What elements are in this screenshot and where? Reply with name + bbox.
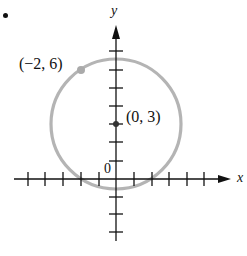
center-point bbox=[113, 121, 119, 127]
x-axis-arrow-icon bbox=[218, 175, 231, 183]
coordinate-plane bbox=[0, 0, 247, 256]
x-axis-label: x bbox=[237, 171, 243, 185]
point-on-circle bbox=[77, 66, 85, 74]
origin-label: 0 bbox=[104, 162, 111, 176]
y-axis-arrow-icon bbox=[112, 25, 120, 39]
y-axis-label: y bbox=[111, 4, 117, 18]
point-label: (−2, 6) bbox=[19, 56, 63, 72]
x-axis bbox=[14, 172, 231, 186]
y-axis bbox=[109, 25, 123, 241]
center-label: (0, 3) bbox=[126, 109, 161, 125]
